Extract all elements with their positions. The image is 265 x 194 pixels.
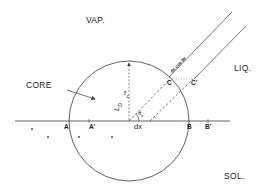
phase-label-vapor: VAP. [86, 16, 105, 25]
point-a: A [64, 124, 69, 131]
solid-atom-markers [31, 128, 113, 138]
dislocation-symbol: L [112, 107, 121, 111]
core-diagram [0, 0, 265, 194]
dashed-line-to-c [129, 80, 169, 121]
core-radius-subscript: c [127, 93, 130, 99]
core-pointer-arrow [67, 90, 95, 99]
contact-angle-label: θe [138, 110, 144, 118]
dislocation-label: LD [113, 103, 123, 111]
phase-label-liquid: LIQ. [234, 64, 251, 73]
point-c-prime: C' [191, 80, 197, 87]
core-label: CORE [26, 81, 52, 90]
angle-subscript: e [141, 113, 143, 118]
point-b-prime: B' [205, 124, 211, 131]
core-radius-label: rc [124, 89, 129, 99]
point-c: C [167, 80, 172, 87]
displacement-label: dx [134, 123, 142, 131]
dislocation-subscript: D [117, 103, 123, 107]
point-a-prime: A' [89, 124, 95, 131]
phase-label-solid: SOL. [224, 172, 245, 181]
point-b: B [187, 124, 192, 131]
